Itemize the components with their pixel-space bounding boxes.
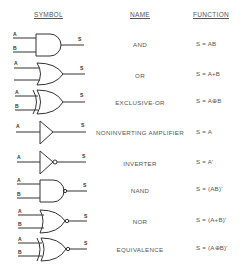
gate-name: NOR — [85, 218, 195, 225]
function-header: FUNCTION — [193, 11, 229, 18]
svg-text:A: A — [13, 31, 17, 37]
svg-text:B: B — [18, 249, 22, 255]
gate-row-equivalence: A B S EQUIVALENCE S = (A⊕B)' — [0, 237, 247, 265]
gate-function: S = (A+B)' — [196, 216, 226, 223]
svg-text:B: B — [17, 191, 21, 197]
gate-function: S = A — [196, 128, 212, 135]
gate-row-nor: A B S NOR S = (A+B)' — [0, 209, 247, 237]
svg-text:A: A — [15, 89, 19, 95]
gate-name: INVERTER — [85, 160, 195, 167]
symbol-header: SYMBOL — [34, 11, 63, 18]
svg-text:S: S — [80, 65, 84, 71]
gate-row-inverter: A S INVERTER S = A' — [0, 149, 247, 177]
svg-text:A: A — [18, 237, 22, 242]
gate-function: S = (AB)' — [196, 185, 223, 192]
svg-text:S: S — [82, 153, 86, 159]
nand-gate-icon: A B S — [0, 178, 90, 206]
gate-name: AND — [85, 41, 195, 48]
svg-text:S: S — [81, 122, 85, 128]
svg-text:A: A — [17, 154, 21, 160]
or-gate-icon: A S — [0, 59, 90, 87]
gate-function: S = A⊕B — [196, 97, 222, 104]
svg-text:B: B — [18, 221, 22, 227]
gate-function: S = AB — [196, 40, 216, 47]
svg-text:S: S — [78, 36, 82, 42]
svg-text:A: A — [14, 60, 18, 66]
gate-row-xor: A B S EXCLUSIVE-OR S = A⊕B — [0, 88, 247, 116]
gate-row-nand: A B S NAND S = (AB)' — [0, 178, 247, 206]
gate-name: NAND — [85, 187, 195, 194]
gate-row-buffer: A S NONINVERTING AMPLIFIER S = A — [0, 118, 247, 146]
svg-text:A: A — [16, 123, 20, 129]
xnor-gate-icon: A B S — [0, 237, 90, 265]
svg-text:A: A — [17, 178, 21, 183]
svg-text:S: S — [80, 92, 84, 98]
xor-gate-icon: A B S — [0, 88, 90, 116]
gate-name: EXCLUSIVE-OR — [85, 99, 195, 106]
gate-name: OR — [85, 72, 195, 79]
gate-row-and: A B S AND S = AB — [0, 30, 247, 58]
name-header: NAME — [130, 11, 150, 18]
gate-function: S = A' — [196, 158, 213, 165]
nor-gate-icon: A B S — [0, 209, 90, 237]
and-gate-icon: A B S — [0, 30, 90, 58]
svg-text:B: B — [13, 45, 17, 51]
gate-function: S = A+B — [196, 70, 220, 77]
svg-text:A: A — [18, 209, 22, 214]
gate-name: NONINVERTING AMPLIFIER — [85, 129, 195, 136]
buffer-gate-icon: A S — [0, 118, 90, 146]
gate-function: S = (A⊕B)' — [196, 244, 228, 251]
gate-row-or: A S OR S = A+B — [0, 59, 247, 87]
gate-name: EQUIVALENCE — [85, 246, 195, 253]
inverter-gate-icon: A S — [0, 149, 90, 177]
svg-text:B: B — [15, 103, 19, 109]
